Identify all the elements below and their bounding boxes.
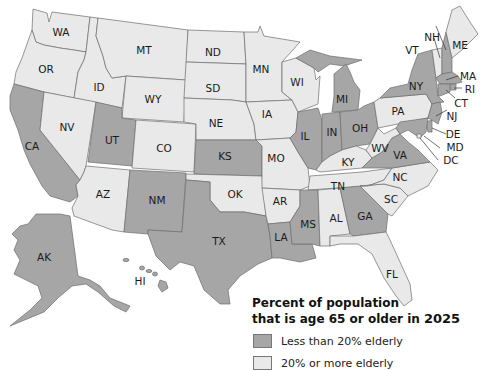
- legend-swatch-dark: [253, 334, 272, 348]
- state-fl[interactable]: [330, 232, 412, 306]
- label-ut: UT: [105, 134, 120, 146]
- legend-swatch-light: [253, 356, 272, 370]
- label-mt: MT: [136, 44, 152, 56]
- label-ak: AK: [37, 251, 52, 263]
- label-ct: CT: [454, 97, 468, 109]
- label-id: ID: [93, 81, 104, 93]
- label-hi: HI: [135, 275, 146, 287]
- label-ma: MA: [460, 70, 477, 82]
- label-mn: MN: [253, 63, 270, 75]
- label-nc: NC: [392, 171, 407, 183]
- label-tx: TX: [211, 235, 226, 247]
- label-pa: PA: [392, 105, 406, 117]
- label-nv: NV: [59, 121, 75, 133]
- state-ak[interactable]: [10, 214, 130, 326]
- label-ny: NY: [409, 80, 424, 92]
- label-nd: ND: [205, 46, 221, 58]
- label-ms: MS: [300, 218, 316, 230]
- label-wy: WY: [145, 93, 162, 105]
- label-ok: OK: [227, 188, 243, 200]
- state-dc[interactable]: [417, 134, 421, 138]
- label-dc: DC: [443, 154, 458, 166]
- label-in: IN: [327, 126, 338, 138]
- label-az: AZ: [96, 188, 110, 200]
- label-de: DE: [446, 128, 461, 140]
- legend-title-line1: Percent of population: [252, 296, 480, 311]
- label-la: LA: [274, 231, 288, 243]
- legend-label-20-or-more: 20% or more elderly: [281, 357, 393, 370]
- map-legend: Percent of population that is age 65 or …: [252, 296, 480, 371]
- label-tn: TN: [330, 180, 345, 192]
- label-wv: WV: [371, 142, 389, 154]
- label-mo: MO: [267, 152, 284, 164]
- label-wi: WI: [290, 76, 303, 88]
- label-md: MD: [446, 141, 463, 153]
- label-nh: NH: [424, 31, 440, 43]
- label-sc: SC: [384, 193, 398, 205]
- state-ct[interactable]: [438, 84, 450, 96]
- label-ks: KS: [218, 150, 232, 162]
- label-ri: RI: [465, 83, 475, 95]
- label-mi: MI: [336, 93, 348, 105]
- leader-de: [432, 128, 446, 134]
- legend-title-year: 2025: [424, 311, 460, 326]
- legend-title-line2: that is age 65 or older in 2025: [252, 311, 480, 327]
- label-oh: OH: [352, 122, 368, 134]
- label-co: CO: [156, 142, 172, 154]
- label-va: VA: [393, 149, 408, 161]
- label-ga: GA: [357, 210, 373, 222]
- label-ca: CA: [25, 140, 40, 152]
- legend-label-less-than-20: Less than 20% elderly: [281, 335, 403, 348]
- state-ri[interactable]: [450, 84, 456, 90]
- legend-item-20-or-more: 20% or more elderly: [252, 355, 480, 371]
- label-fl: FL: [386, 268, 398, 280]
- label-ne: NE: [209, 117, 224, 129]
- label-ky: KY: [342, 156, 356, 168]
- label-sd: SD: [206, 82, 221, 94]
- label-il: IL: [301, 130, 310, 142]
- label-vt: VT: [405, 44, 419, 56]
- label-wa: WA: [53, 26, 71, 38]
- label-ia: IA: [262, 108, 273, 120]
- label-ar: AR: [273, 195, 287, 207]
- legend-title: Percent of population that is age 65 or …: [252, 296, 480, 327]
- legend-item-less-than-20: Less than 20% elderly: [252, 333, 480, 349]
- label-nm: NM: [149, 194, 166, 206]
- state-hi[interactable]: [123, 258, 168, 292]
- label-al: AL: [329, 212, 342, 224]
- legend-title-line2-text: that is age 65 or older in: [252, 312, 424, 326]
- label-or: OR: [38, 63, 54, 75]
- label-nj: NJ: [447, 110, 458, 122]
- label-me: ME: [452, 39, 468, 51]
